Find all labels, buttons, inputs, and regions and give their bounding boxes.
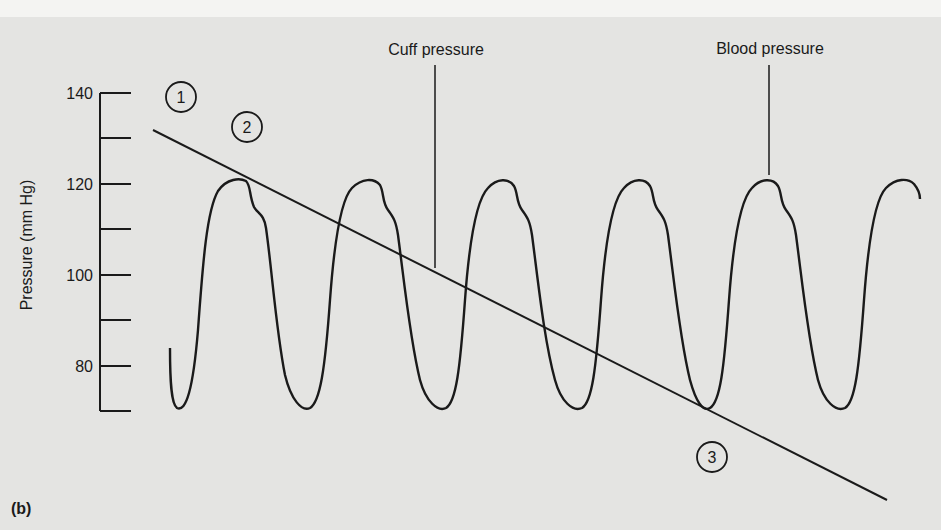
cuff-pressure-label: Cuff pressure <box>388 41 484 58</box>
circled-number-2: 2 <box>232 112 262 142</box>
circled-number-3: 3 <box>697 442 727 472</box>
blood-pressure-wave <box>170 179 920 408</box>
y-axis-label: Pressure (mm Hg) <box>18 180 35 311</box>
y-tick-label-100: 100 <box>66 267 93 284</box>
svg-text:3: 3 <box>708 449 717 466</box>
circled-number-1: 1 <box>166 82 196 112</box>
y-tick-label-140: 140 <box>66 85 93 102</box>
pressure-chart: 140 120 100 80 Pressure (mm Hg) Cuff pre… <box>0 0 941 532</box>
y-axis <box>100 93 131 411</box>
y-tick-label-80: 80 <box>75 358 93 375</box>
svg-text:1: 1 <box>177 89 186 106</box>
svg-text:2: 2 <box>243 119 252 136</box>
panel-label: (b) <box>11 500 31 517</box>
y-tick-label-120: 120 <box>66 176 93 193</box>
blood-pressure-label: Blood pressure <box>716 40 824 57</box>
